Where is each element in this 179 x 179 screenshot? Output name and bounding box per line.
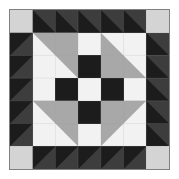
center-white <box>124 78 147 101</box>
corner-light-square <box>146 146 169 169</box>
corner-light-square <box>10 10 33 33</box>
center-black <box>78 55 101 78</box>
corner-light-square <box>146 10 169 33</box>
quilt-image-canvas <box>0 0 179 179</box>
center-black <box>78 101 101 124</box>
center-white <box>78 78 101 101</box>
center-white <box>33 78 56 101</box>
quilt-center-layer <box>33 33 147 147</box>
quilt-frame <box>9 9 170 170</box>
corner-light-square <box>10 146 33 169</box>
center-black <box>101 78 124 101</box>
center-white <box>78 124 101 147</box>
center-black <box>55 78 78 101</box>
center-white <box>78 33 101 56</box>
quilt-block-svg <box>10 10 169 169</box>
